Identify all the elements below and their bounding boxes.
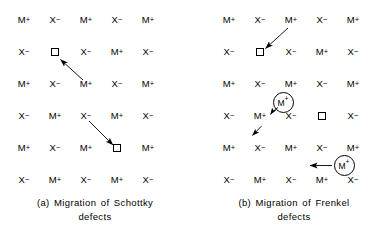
arrow-interstitial-continuation-hop bbox=[253, 126, 262, 136]
caption-schottky-line2: defects bbox=[0, 210, 190, 224]
migration-arrows-frenkel bbox=[189, 0, 379, 190]
lattice-frenkel: M+ X− M+ X− M+ X− X− M+ X− M+ X− M+ X− M… bbox=[189, 0, 379, 190]
panel-frenkel: M+ X− M+ X− M+ X− X− M+ X− M+ X− M+ X− M… bbox=[189, 0, 379, 242]
caption-schottky-line1: (a) Migration of Schottky bbox=[37, 197, 153, 208]
caption-frenkel: (b) Migration of Frenkel defects bbox=[199, 196, 379, 224]
arrow-anion-to-vacancy bbox=[89, 121, 113, 145]
lattice-schottky: M+ X− M+ X− M+ X− X− M+ X− M+ X− M+ X− M… bbox=[0, 0, 190, 190]
panel-schottky: M+ X− M+ X− M+ X− X− M+ X− M+ X− M+ X− M… bbox=[0, 0, 190, 242]
arrow-interstitial-curved-hop bbox=[271, 108, 279, 115]
arrow-cation-to-vacancy bbox=[61, 60, 84, 81]
arrow-cation-to-vacancy bbox=[266, 28, 289, 49]
defect-migration-figure: M+ X− M+ X− M+ X− X− M+ X− M+ X− M+ X− M… bbox=[0, 0, 379, 242]
caption-schottky: (a) Migration of Schottky defects bbox=[0, 196, 190, 224]
migration-arrows-schottky bbox=[0, 0, 190, 190]
caption-frenkel-line2: defects bbox=[199, 210, 379, 224]
caption-frenkel-line1: (b) Migration of Frenkel bbox=[238, 197, 349, 208]
